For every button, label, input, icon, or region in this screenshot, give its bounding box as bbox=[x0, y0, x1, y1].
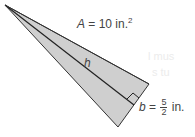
height-label: h bbox=[84, 56, 91, 70]
base-eq: = bbox=[146, 100, 160, 114]
base-unit: in. bbox=[168, 100, 184, 114]
base-var: b bbox=[139, 100, 146, 114]
area-label: A = 10 in.2 bbox=[77, 16, 133, 31]
area-exponent: 2 bbox=[128, 16, 132, 25]
area-var: A bbox=[77, 17, 85, 31]
fraction-denominator: 2 bbox=[161, 108, 166, 117]
base-label: b = 52 in. bbox=[139, 98, 184, 117]
area-value: = 10 in. bbox=[85, 17, 128, 31]
base-fraction: 52 bbox=[160, 98, 167, 117]
